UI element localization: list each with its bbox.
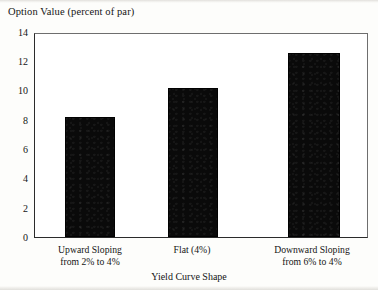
y-tick-label: 0 <box>2 233 28 243</box>
y-tick-label: 8 <box>2 116 28 126</box>
bar-downward-sloping <box>288 53 340 237</box>
y-tick-label: 12 <box>2 57 28 67</box>
scan-edge-bottom <box>0 286 378 290</box>
x-category-label-flat: Flat (4%) <box>152 244 232 256</box>
y-tick-label: 6 <box>2 145 28 155</box>
x-category-label-line1: Downward Sloping <box>274 244 350 255</box>
x-category-label-downward-sloping: Downward Sloping from 6% to 4% <box>249 244 375 267</box>
figure-root: Option Value (percent of par) 14 12 10 8… <box>0 0 378 290</box>
y-tick-label: 10 <box>2 86 28 96</box>
y-tick-label: 2 <box>2 204 28 214</box>
bar-flat <box>168 88 218 237</box>
x-category-label-line1: Upward Sloping <box>58 244 122 255</box>
y-tick-label: 4 <box>2 174 28 184</box>
x-category-label-line2: from 2% to 4% <box>34 256 146 268</box>
x-category-label-line1: Flat (4%) <box>174 244 211 255</box>
scan-edge-top <box>0 0 378 3</box>
plot-area <box>34 33 368 238</box>
y-axis-caption: Option Value (percent of par) <box>8 6 134 17</box>
x-category-label-line2: from 6% to 4% <box>249 256 375 268</box>
y-tick-label: 14 <box>2 28 28 38</box>
x-category-label-upward-sloping: Upward Sloping from 2% to 4% <box>34 244 146 267</box>
x-axis-title: Yield Curve Shape <box>0 271 378 282</box>
bar-upward-sloping <box>65 117 115 237</box>
